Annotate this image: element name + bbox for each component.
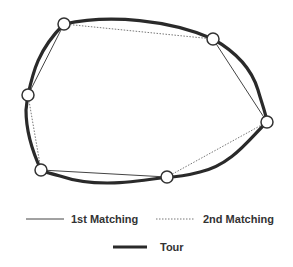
second-matching-edges: [28, 24, 267, 177]
legend-tour-label: Tour: [160, 241, 184, 253]
second-matching-edge: [167, 122, 267, 177]
legend-first-matching-label: 1st Matching: [71, 213, 138, 225]
node: [207, 33, 219, 45]
legend: 1st Matching 2nd Matching Tour: [26, 213, 274, 253]
node: [35, 164, 47, 176]
node: [22, 89, 34, 101]
node: [58, 18, 70, 30]
first-matching-edges: [28, 24, 267, 177]
node: [261, 116, 273, 128]
node: [161, 171, 173, 183]
matching-tour-diagram: 1st Matching 2nd Matching Tour: [0, 0, 293, 267]
legend-second-matching-label: 2nd Matching: [203, 213, 274, 225]
first-matching-edge: [28, 24, 64, 95]
first-matching-edge: [213, 39, 267, 122]
tour-path: [26, 19, 267, 183]
nodes: [22, 18, 273, 183]
